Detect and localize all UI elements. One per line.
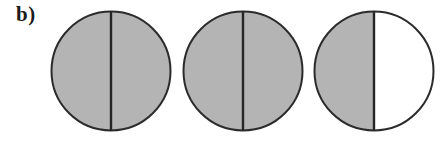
disc-1 (50, 10, 172, 132)
disc-2 (182, 10, 304, 132)
panel-label: b) (16, 4, 36, 25)
figure-panel-b: b) (0, 0, 443, 144)
disc-3 (313, 10, 435, 132)
